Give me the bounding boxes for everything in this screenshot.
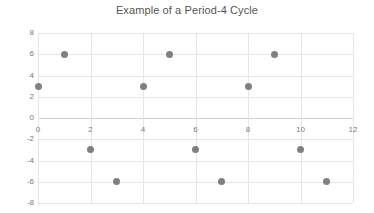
y-axis-tick-label: -4 [4, 157, 34, 165]
y-axis-tick-label: 0 [4, 114, 34, 122]
data-point [87, 146, 94, 153]
data-point [166, 51, 173, 58]
y-axis-tick-label: 4 [4, 72, 34, 80]
x-axis-tick-label: 6 [184, 126, 208, 134]
y-axis-tick-label: 6 [4, 50, 34, 58]
y-axis-tick-label: 2 [4, 93, 34, 101]
gridline-vertical [301, 33, 302, 203]
x-axis-tick-label: 12 [341, 126, 365, 134]
x-axis-tick-label: 8 [236, 126, 260, 134]
y-axis-tick-label: -8 [4, 199, 34, 207]
y-axis-tick-label: -6 [4, 178, 34, 186]
data-point [61, 51, 68, 58]
x-axis-tick-label: 0 [26, 126, 50, 134]
x-axis-tick-label: 10 [289, 126, 313, 134]
x-axis-tick-label: 2 [79, 126, 103, 134]
plot-area [38, 33, 353, 203]
y-axis-tick-label: 8 [4, 29, 34, 37]
x-axis-tick-labels: 024681012 [38, 126, 358, 138]
data-point [35, 83, 42, 90]
gridline-vertical [353, 33, 354, 203]
data-point [297, 146, 304, 153]
gridline-vertical [196, 33, 197, 203]
data-point [113, 178, 120, 185]
data-point [271, 51, 278, 58]
chart-container: Example of a Period-4 Cycle 86420-2-4-6-… [0, 0, 374, 213]
gridline-horizontal [38, 203, 353, 204]
data-point [192, 146, 199, 153]
gridline-vertical [248, 33, 249, 203]
gridline-vertical [38, 33, 39, 203]
y-axis-tick-label: -2 [4, 135, 34, 143]
y-axis-tick-labels: 86420-2-4-6-8 [0, 0, 34, 213]
data-point [323, 178, 330, 185]
data-point [245, 83, 252, 90]
chart-title: Example of a Period-4 Cycle [0, 4, 374, 16]
data-point [140, 83, 147, 90]
x-axis-tick-label: 4 [131, 126, 155, 134]
gridline-vertical [91, 33, 92, 203]
data-point [218, 178, 225, 185]
gridline-vertical [143, 33, 144, 203]
